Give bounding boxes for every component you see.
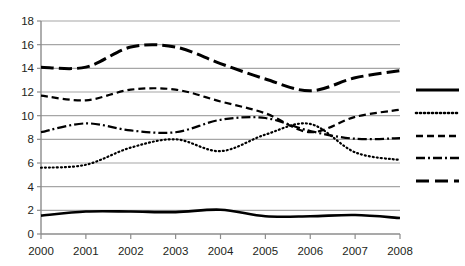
y-tick-label: 8	[28, 133, 34, 145]
x-tick-label: 2006	[297, 245, 323, 257]
x-tick-marks	[41, 234, 400, 239]
y-tick-label: 12	[21, 86, 34, 98]
x-axis-tick-labels: 200020012002200320042005200620072008	[28, 245, 413, 257]
y-tick-label: 0	[28, 228, 34, 240]
x-tick-label: 2000	[28, 245, 54, 257]
chart-canvas: 024681012141618 200020012002200320042005…	[0, 0, 465, 266]
line-chart: 024681012141618 200020012002200320042005…	[0, 0, 465, 266]
y-axis-tick-labels: 024681012141618	[21, 15, 41, 240]
x-tick-label: 2002	[118, 245, 144, 257]
y-tick-label: 4	[28, 181, 35, 193]
data-series-group	[41, 45, 400, 218]
x-tick-label: 2008	[387, 245, 413, 257]
grid-lines	[41, 21, 400, 210]
y-tick-label: 2	[28, 204, 34, 216]
x-tick-label: 2005	[253, 245, 279, 257]
y-tick-label: 6	[28, 157, 34, 169]
x-tick-label: 2004	[208, 245, 234, 257]
y-tick-label: 16	[21, 39, 34, 51]
x-tick-label: 2003	[163, 245, 189, 257]
series-line-series-4	[41, 117, 400, 139]
series-line-series-2	[41, 123, 400, 167]
axis-lines	[41, 21, 400, 234]
x-tick-label: 2007	[342, 245, 368, 257]
x-tick-label: 2001	[73, 245, 99, 257]
y-tick-label: 18	[21, 15, 34, 27]
y-tick-label: 10	[21, 110, 34, 122]
clipped-chart-title	[40, 0, 410, 2]
series-line-series-3	[41, 88, 400, 132]
y-tick-label: 14	[21, 62, 34, 74]
chart-legend	[416, 90, 459, 181]
